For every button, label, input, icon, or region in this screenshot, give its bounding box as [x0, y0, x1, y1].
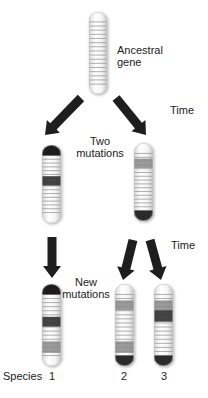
chromosome-ancestral-gene: [89, 12, 107, 94]
diagram-canvas: [0, 0, 208, 398]
two-mutations-line2: mutations: [70, 147, 130, 159]
arrow-ancestral-to-left: [45, 95, 84, 135]
bottom-cap-dark: [134, 211, 153, 221]
new-mutations-line1: New: [60, 276, 112, 288]
bottom-cap-dark: [154, 356, 173, 366]
chromosome-body: [115, 284, 134, 366]
two-mutations-line1: Two: [70, 135, 130, 147]
arrow-right-to-species-3: [146, 239, 167, 280]
chromosome-body: [89, 12, 107, 94]
chromosome-intermediate-right: [134, 143, 153, 221]
chromosome-body: [154, 284, 173, 366]
chromosome-species-1: [42, 284, 61, 366]
mutation-band: [42, 341, 61, 352]
time-label-2: Time: [171, 239, 195, 251]
mutation-band: [42, 176, 61, 185]
new-mutations-label: New mutations: [60, 276, 112, 300]
new-mutations-line2: mutations: [60, 288, 112, 300]
ancestral-gene-label: Ancestral gene: [117, 44, 163, 68]
ancestral-label-line2: gene: [117, 56, 163, 68]
species-number-3: 3: [161, 370, 167, 382]
chromosome-species-2: [115, 284, 134, 366]
mutation-band: [115, 300, 134, 310]
mutation-band: [42, 317, 61, 327]
species-number-1: 1: [49, 370, 55, 382]
top-cap-dark: [42, 145, 61, 155]
mutation-band: [115, 341, 134, 352]
mutation-band: [154, 300, 173, 310]
arrow-right-to-species-2: [117, 239, 137, 280]
mutation-band: [134, 159, 153, 168]
bottom-cap-dark: [115, 356, 134, 366]
time-label-1: Time: [170, 104, 194, 116]
chromosome-species-3: [154, 284, 173, 366]
arrow-ancestral-to-right: [113, 95, 146, 135]
two-mutations-label: Two mutations: [70, 135, 130, 159]
chromosome-intermediate-left: [42, 145, 61, 223]
chromosome-body: [134, 143, 153, 221]
species-number-2: 2: [121, 370, 127, 382]
species-label: Species: [3, 370, 42, 382]
ancestral-label-line1: Ancestral: [117, 44, 163, 56]
mutation-band: [154, 310, 173, 321]
arrow-left-to-species-1: [43, 237, 61, 278]
top-cap-dark: [42, 284, 61, 294]
